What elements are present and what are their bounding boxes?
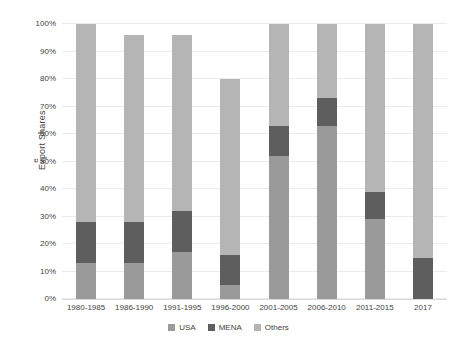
bar-slot-2011-2015 — [351, 24, 399, 299]
segment-others-1996-2000 — [220, 79, 240, 255]
y-tick-100%: 100% — [0, 19, 56, 28]
x-tick-2017: 2017 — [388, 303, 457, 312]
segment-mena-2011-2015 — [365, 192, 385, 220]
legend-label-mena: MENA — [219, 323, 242, 332]
segment-others-1980-1985 — [76, 24, 96, 222]
segment-usa-1980-1985 — [76, 263, 96, 299]
legend-swatch-others — [254, 324, 261, 331]
segment-mena-1991-1995 — [172, 211, 192, 252]
stacked-bar-2011-2015 — [365, 24, 385, 299]
y-tick-30%: 30% — [0, 212, 56, 221]
segment-others-2017 — [413, 24, 433, 258]
plot-area — [62, 24, 447, 300]
legend-swatch-mena — [208, 324, 215, 331]
y-tick-20%: 20% — [0, 239, 56, 248]
segment-mena-2001-2005 — [269, 126, 289, 156]
y-tick-0%: 0% — [0, 294, 56, 303]
legend-label-usa: USA — [179, 323, 195, 332]
segment-others-2001-2005 — [269, 24, 289, 126]
bar-slot-2017 — [399, 24, 447, 299]
segment-usa-1986-1990 — [124, 263, 144, 299]
stacked-bar-1986-1990 — [124, 35, 144, 299]
bar-slot-1996-2000 — [206, 24, 254, 299]
segment-others-2011-2015 — [365, 24, 385, 192]
stacked-bar-2001-2005 — [269, 24, 289, 299]
y-tick-70%: 70% — [0, 102, 56, 111]
y-tick-60%: 60% — [0, 129, 56, 138]
bar-slot-1986-1990 — [110, 24, 158, 299]
segment-usa-2011-2015 — [365, 219, 385, 299]
stacked-bar-1991-1995 — [172, 35, 192, 299]
y-tick-50%: 50% — [0, 157, 56, 166]
segment-mena-1980-1985 — [76, 222, 96, 263]
legend-item-others: Others — [254, 323, 289, 332]
legend: USAMENAOthers — [0, 323, 457, 332]
legend-swatch-usa — [168, 324, 175, 331]
segment-others-1991-1995 — [172, 35, 192, 211]
segment-usa-1991-1995 — [172, 252, 192, 299]
segment-mena-2006-2010 — [317, 98, 337, 126]
y-tick-80%: 80% — [0, 74, 56, 83]
segment-usa-2006-2010 — [317, 126, 337, 299]
stacked-bar-2017 — [413, 24, 433, 299]
stacked-bar-1980-1985 — [76, 24, 96, 299]
segment-usa-1996-2000 — [220, 285, 240, 299]
bar-slot-2006-2010 — [303, 24, 351, 299]
legend-label-others: Others — [265, 323, 289, 332]
y-tick-90%: 90% — [0, 47, 56, 56]
segment-mena-2017 — [413, 258, 433, 299]
bar-slot-2001-2005 — [255, 24, 303, 299]
y-tick-10%: 10% — [0, 267, 56, 276]
stacked-bar-1996-2000 — [220, 79, 240, 299]
bar-slot-1980-1985 — [62, 24, 110, 299]
segment-mena-1996-2000 — [220, 255, 240, 285]
stacked-bar-2006-2010 — [317, 24, 337, 299]
segment-others-2006-2010 — [317, 24, 337, 98]
segment-others-1986-1990 — [124, 35, 144, 222]
y-tick-40%: 40% — [0, 184, 56, 193]
bar-slot-1991-1995 — [158, 24, 206, 299]
segment-usa-2001-2005 — [269, 156, 289, 299]
legend-item-usa: USA — [168, 323, 195, 332]
export-shares-chart: Export Shares e 0%10%20%30%40%50%60%70%8… — [0, 0, 457, 346]
segment-mena-1986-1990 — [124, 222, 144, 263]
legend-item-mena: MENA — [208, 323, 242, 332]
